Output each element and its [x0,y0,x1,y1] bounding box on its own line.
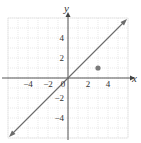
x-axis-label: x [131,72,137,84]
x-tick-label: −4 [23,79,33,89]
y-tick-label: 2 [60,53,65,63]
data-point [95,65,100,70]
x-tick-label: 2 [86,79,91,89]
y-tick-label: 4 [60,33,65,43]
x-tick-label: 4 [106,79,111,89]
x-tick-label: −2 [43,79,53,89]
origin-label: 0 [61,79,66,89]
coordinate-plane: −4 −2 0 2 4 4 2 −2 −4 x y [0,0,141,143]
y-tick-label: −2 [54,93,64,103]
y-tick-label: −4 [54,113,64,123]
y-axis-label: y [63,2,69,14]
